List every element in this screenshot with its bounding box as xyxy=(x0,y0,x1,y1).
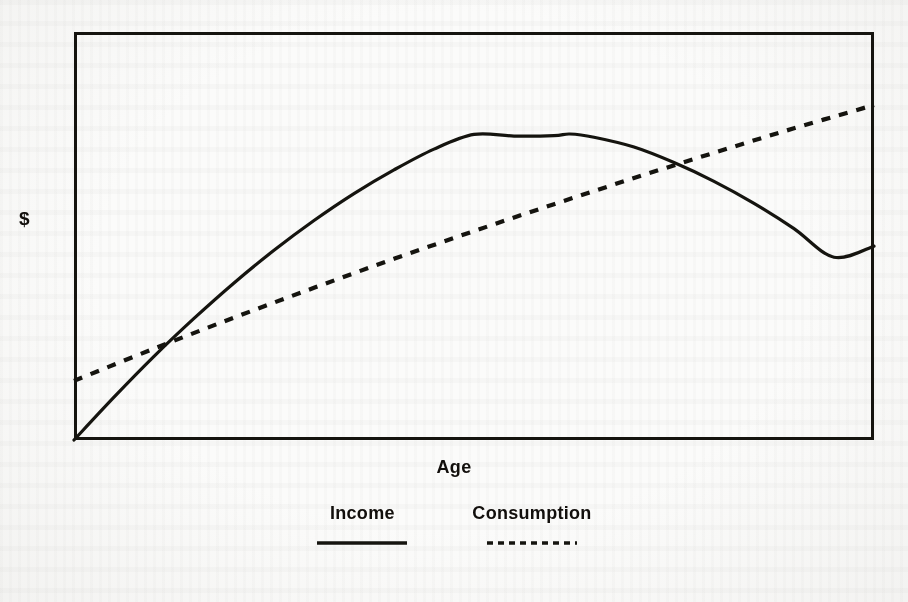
x-axis-label: Age xyxy=(0,457,908,478)
y-axis-label: $ xyxy=(19,208,30,230)
solid-line-icon xyxy=(316,538,408,548)
chart-legend: Income Consumption xyxy=(0,503,908,548)
legend-label-consumption: Consumption xyxy=(472,503,591,524)
legend-label-income: Income xyxy=(330,503,395,524)
consumption-series-line xyxy=(74,105,874,381)
legend-item-consumption: Consumption xyxy=(472,503,591,548)
figure-page: $ Age Income Consumption xyxy=(0,0,908,602)
chart-plot-area xyxy=(74,32,874,440)
legend-item-income: Income xyxy=(316,503,408,548)
income-series-line xyxy=(74,134,874,440)
dashed-line-icon xyxy=(486,538,578,548)
